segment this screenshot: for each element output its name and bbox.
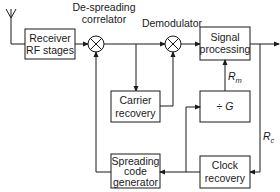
despreader-label-line1: De-spreading: [72, 1, 135, 13]
divide-by-g-block: ÷ G: [200, 91, 250, 122]
despreader-label-line2: correlator: [82, 13, 127, 25]
carrier-to-demodulator-arrow: [160, 52, 173, 106]
spreading-code-to-despreader-arrow: [96, 52, 111, 172]
demodulator-label: Demodulator: [142, 17, 203, 29]
clock-recovery-label-line2: recovery: [205, 172, 246, 184]
antenna-icon: [6, 9, 25, 44]
signal-processing-block: Signal processing: [200, 27, 251, 60]
spreading-code-generator-block: Spreading code generator: [111, 154, 160, 188]
receiver-label-line2: RF stages: [26, 44, 74, 56]
rc-label: Rc: [263, 130, 275, 145]
carrier-recovery-block: Carrier recovery: [111, 91, 160, 122]
spreading-code-label-line3: generator: [113, 176, 158, 188]
carrier-recovery-label-line1: Carrier: [119, 94, 152, 106]
receiver-rf-stages-block: Receiver RF stages: [25, 29, 75, 59]
clock-to-divider-arrow: [186, 107, 200, 172]
rm-label: Rm: [228, 70, 242, 85]
clock-recovery-label-line1: Clock: [212, 159, 239, 171]
rc-feedback-arrow: [250, 44, 260, 172]
divide-by-g-label: ÷ G: [217, 100, 234, 112]
signal-processing-label-line2: processing: [200, 43, 251, 55]
demodulator-mixer: [165, 36, 181, 52]
receiver-label-line1: Receiver: [29, 32, 71, 44]
signal-processing-label-line1: Signal: [210, 31, 239, 43]
clock-recovery-block: Clock recovery: [200, 156, 250, 188]
carrier-recovery-label-line2: recovery: [115, 107, 156, 119]
despreading-correlator-mixer: [88, 36, 104, 52]
block-diagram: Receiver RF stages De-spreading correlat…: [0, 0, 280, 192]
